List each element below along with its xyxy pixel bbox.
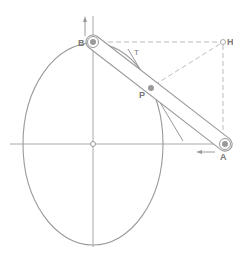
label-B: B — [78, 38, 85, 48]
arrow-left-icon — [196, 150, 215, 154]
label-P: P — [139, 90, 145, 100]
pivot-B — [90, 39, 96, 45]
label-A: A — [220, 152, 227, 162]
arrow-up-icon — [83, 16, 87, 36]
label-H: H — [227, 37, 233, 47]
center-point — [91, 142, 96, 147]
point-H — [221, 40, 226, 45]
label-T: T — [134, 48, 139, 57]
trammel-diagram: B A P H T — [0, 0, 233, 263]
tracing-point-P — [148, 85, 154, 91]
pivot-A — [222, 141, 228, 147]
dashed-line-H-P — [156, 44, 220, 84]
